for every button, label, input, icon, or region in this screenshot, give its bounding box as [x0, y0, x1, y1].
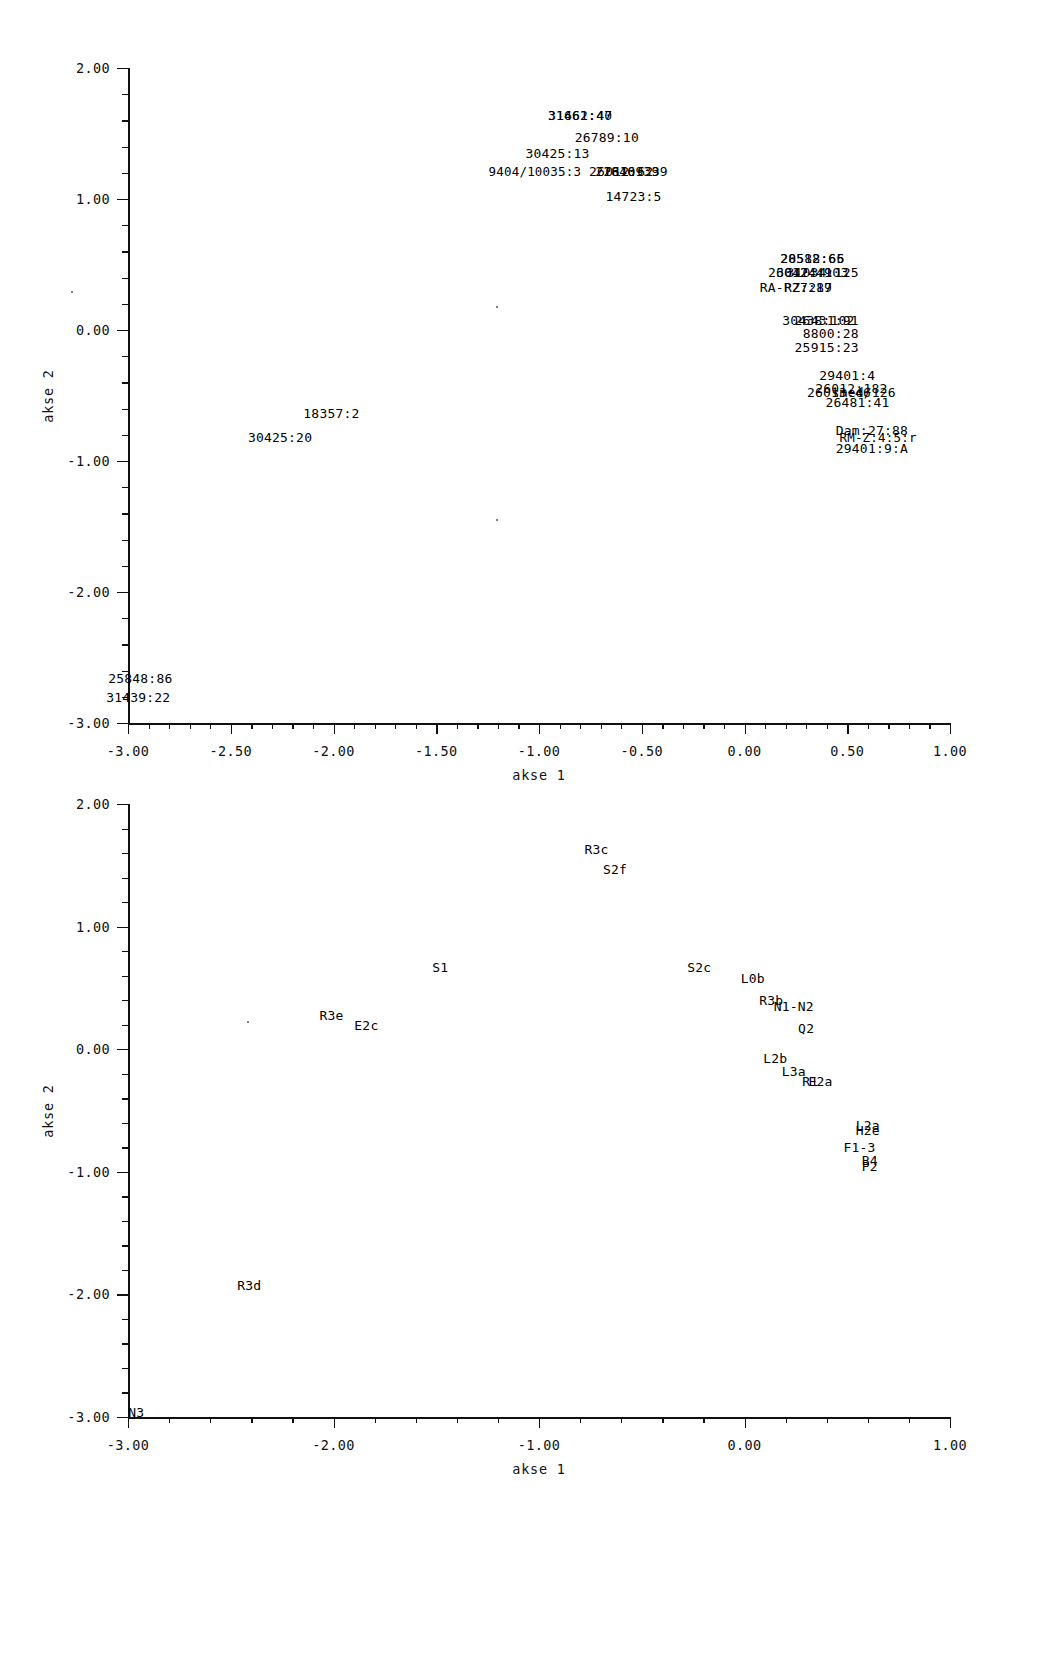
data-point-label: RZ:287	[784, 279, 832, 294]
y-axis-tick-label: 1.00	[50, 191, 110, 207]
x-axis-tick-label: -2.00	[312, 1437, 355, 1453]
x-axis-tick-major	[950, 1417, 951, 1428]
y-axis-tick-minor	[122, 356, 129, 357]
x-axis-tick-minor	[498, 723, 499, 729]
y-axis-tick-major	[117, 330, 129, 331]
x-axis-tick-minor	[868, 1417, 869, 1423]
y-axis-tick-minor	[122, 1074, 129, 1075]
data-point-label: 31439:22	[106, 689, 170, 704]
x-axis-tick-minor	[806, 723, 807, 729]
y-axis-tick-label: -2.00	[50, 1286, 110, 1302]
y-axis-tick-major	[117, 1049, 129, 1050]
x-axis-tick-minor	[416, 723, 417, 729]
y-axis-tick-minor	[122, 225, 129, 226]
data-point-label: 14723:5	[605, 189, 661, 204]
y-axis-tick-minor	[122, 951, 129, 952]
data-point-label: L0b	[741, 971, 765, 986]
y-axis-tick-minor	[122, 1123, 129, 1124]
x-axis-tick-minor	[457, 723, 458, 729]
x-axis-tick-label: -1.00	[518, 1437, 561, 1453]
y-axis-tick-minor	[122, 1098, 129, 1099]
x-axis-tick-label: 0.50	[830, 743, 864, 759]
x-axis-tick-major	[745, 723, 746, 734]
y-axis-tick-major	[117, 592, 129, 593]
data-point-label: E2c	[354, 1017, 378, 1032]
data-point-label: N3	[128, 1405, 144, 1420]
data-point-label: N1-N2	[774, 999, 814, 1014]
data-point-label: 26789:10	[575, 130, 639, 145]
y-axis-tick-minor	[122, 566, 129, 567]
x-axis-tick-label: -0.50	[620, 743, 663, 759]
x-axis-tick-minor	[210, 723, 211, 729]
data-point-label: 30425:20	[248, 430, 312, 445]
x-axis-tick-minor	[703, 723, 704, 729]
y-axis-tick-minor	[122, 278, 129, 279]
data-point-label: 8800:28	[803, 325, 859, 340]
x-axis-tick-minor	[703, 1417, 704, 1423]
x-axis-tick-minor	[683, 723, 684, 729]
y-axis-tick-major	[117, 461, 129, 462]
plot-axes-bottom: -3.00-2.00-1.000.001.002.001.000.00-1.00…	[0, 800, 1061, 1656]
x-axis-tick-minor	[210, 1417, 211, 1423]
y-axis-tick-minor	[122, 94, 129, 95]
data-point-label: 18357:2	[303, 405, 359, 420]
y-axis-tick-minor	[122, 1343, 129, 1344]
x-axis-tick-major	[745, 1417, 746, 1428]
x-axis-tick-label: -1.50	[415, 743, 458, 759]
y-axis-tick-minor	[122, 902, 129, 903]
y-axis-tick-minor	[122, 1196, 129, 1197]
x-axis-tick-major	[334, 723, 335, 734]
x-axis-title: akse 1	[512, 767, 566, 783]
data-point-label: P2	[862, 1158, 878, 1173]
y-axis-tick-minor	[122, 409, 129, 410]
x-axis-tick-minor	[477, 723, 478, 729]
y-axis-tick-major	[117, 1417, 129, 1418]
x-axis-tick-major	[950, 723, 951, 734]
y-axis-tick-label: -1.00	[50, 1164, 110, 1180]
data-point-label: S2c	[687, 960, 711, 975]
x-axis-tick-minor	[169, 1417, 170, 1423]
y-axis-tick-minor	[122, 173, 129, 174]
x-axis-tick-minor	[662, 723, 663, 729]
x-axis-tick-major	[128, 723, 129, 734]
x-axis-tick-minor	[251, 723, 252, 729]
y-axis-tick-minor	[122, 1221, 129, 1222]
y-axis-tick-minor	[122, 829, 129, 830]
plot-axes-top: -3.00-2.50-2.00-1.50-1.00-0.500.000.501.…	[0, 0, 1061, 800]
correspondence-plot-top: -3.00-2.50-2.00-1.50-1.00-0.500.000.501.…	[0, 0, 1061, 800]
x-axis-tick-label: 1.00	[933, 743, 967, 759]
y-axis-tick-minor	[122, 878, 129, 879]
x-axis-tick-minor	[929, 723, 930, 729]
x-axis-tick-minor	[601, 723, 602, 729]
y-axis-tick-label: -2.00	[50, 584, 110, 600]
x-axis-tick-label: 0.00	[727, 1437, 761, 1453]
data-point-label: 21846:39	[595, 164, 659, 179]
y-axis-tick-minor	[122, 435, 129, 436]
y-axis-tick-label: 0.00	[50, 322, 110, 338]
x-axis-tick-major	[539, 1417, 540, 1428]
y-axis-tick-minor	[122, 1392, 129, 1393]
x-axis-tick-label: -3.00	[107, 1437, 150, 1453]
scan-speck	[247, 1021, 249, 1023]
y-axis-tick-major	[117, 723, 129, 724]
y-axis-tick-major	[117, 1172, 129, 1173]
y-axis-tick-minor	[122, 382, 129, 383]
y-axis-tick-minor	[122, 251, 129, 252]
data-point-label: 9404/10035:3	[489, 164, 582, 179]
x-axis-tick-label: 0.00	[727, 743, 761, 759]
y-axis-tick-major	[117, 68, 129, 69]
x-axis-tick-minor	[765, 723, 766, 729]
x-axis-tick-minor	[518, 723, 519, 729]
y-axis-line	[128, 68, 130, 723]
x-axis-tick-minor	[149, 723, 150, 729]
y-axis-tick-label: 2.00	[50, 60, 110, 76]
scan-speck	[71, 291, 73, 293]
y-axis-tick-minor	[122, 147, 129, 148]
x-axis-tick-minor	[375, 723, 376, 729]
y-axis-tick-minor	[122, 513, 129, 514]
data-point-label: S2f	[603, 861, 627, 876]
x-axis-tick-minor	[662, 1417, 663, 1423]
data-point-label: 20512:66	[780, 250, 844, 265]
x-axis-tick-label: -2.50	[209, 743, 252, 759]
x-axis-tick-minor	[560, 723, 561, 729]
